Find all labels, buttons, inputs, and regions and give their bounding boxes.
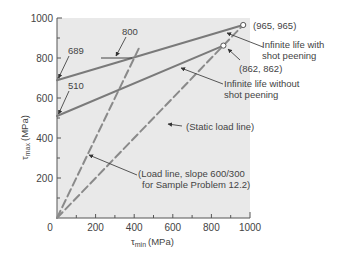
- x-tick-200: 200: [87, 222, 104, 233]
- x-tick-labels: 0 200 400 600 800 1000: [47, 222, 261, 233]
- label-point-965: (965, 965): [253, 20, 296, 31]
- label-800: 800: [122, 26, 138, 37]
- label-without-peening-1: Infinite life without: [224, 78, 300, 89]
- label-689: 689: [68, 45, 84, 56]
- x-tick-1000: 1000: [239, 222, 262, 233]
- label-load-line-1: (Load line, slope 600/300: [138, 168, 245, 179]
- point-862-marker: [221, 43, 226, 48]
- label-with-peening-1: Infinite life with: [262, 39, 324, 50]
- y-tick-1000: 1000: [31, 13, 54, 24]
- x-tick-400: 400: [126, 222, 143, 233]
- label-510: 510: [68, 80, 84, 91]
- y-tick-labels: 1000 800 600 400 200: [31, 13, 54, 184]
- y-tick-600: 600: [36, 93, 53, 104]
- y-tick-800: 800: [36, 53, 53, 64]
- x-tick-800: 800: [203, 222, 220, 233]
- label-static-load-line: (Static load line): [186, 121, 254, 132]
- y-tick-400: 400: [36, 133, 53, 144]
- label-without-peening-2: shot peening: [224, 89, 278, 100]
- x-axis-title: τmin(MPa): [131, 236, 174, 248]
- label-load-line-2: for Sample Problem 12.2): [142, 179, 250, 190]
- y-axis-title: τmax(MPa): [19, 115, 31, 160]
- x-tick-600: 600: [164, 222, 181, 233]
- x-tick-0: 0: [47, 222, 53, 233]
- label-with-peening-2: shot peening: [262, 50, 316, 61]
- y-tick-200: 200: [36, 173, 53, 184]
- label-point-862: (862, 862): [239, 63, 282, 74]
- goodman-diagram: 1000 800 600 400 200 0 200 400 600 800 1…: [0, 0, 342, 253]
- point-965-marker: [241, 22, 246, 27]
